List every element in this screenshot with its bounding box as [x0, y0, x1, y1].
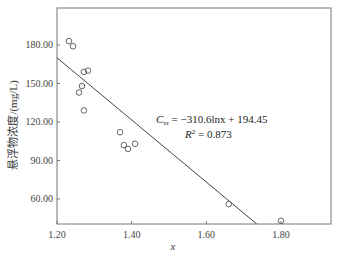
- data-points: [66, 38, 284, 223]
- data-point: [79, 83, 85, 89]
- y-tick-label: 180.00: [26, 39, 54, 50]
- data-point: [76, 90, 82, 96]
- x-tick-label: 1.60: [198, 229, 216, 240]
- y-axis-label: 悬浮物浓度/(mg/L): [6, 80, 20, 170]
- data-point: [132, 141, 138, 147]
- data-point: [125, 146, 131, 152]
- x-tick-label: 1.40: [123, 229, 141, 240]
- x-axis-label: x: [170, 240, 176, 252]
- y-tick-label: 120.00: [26, 116, 54, 127]
- data-point: [226, 201, 232, 207]
- y-tick-label: 90.00: [31, 155, 54, 166]
- y-tick-label: 150.00: [26, 78, 54, 89]
- data-point: [81, 108, 87, 114]
- fit-line: [57, 58, 257, 224]
- x-tick-label: 1.80: [272, 229, 290, 240]
- data-point: [66, 38, 72, 44]
- data-point: [70, 43, 76, 49]
- data-point: [117, 129, 123, 135]
- regression-equation: Css = −310.6lnx + 194.45: [156, 113, 268, 127]
- y-tick-label: 60.00: [31, 193, 54, 204]
- chart: 180.00150.00120.0090.0060.00 1.201.401.6…: [0, 0, 343, 262]
- y-axis: 180.00150.00120.0090.0060.00: [26, 39, 61, 204]
- r-squared: R2 = 0.873: [184, 128, 232, 140]
- x-tick-label: 1.20: [48, 229, 66, 240]
